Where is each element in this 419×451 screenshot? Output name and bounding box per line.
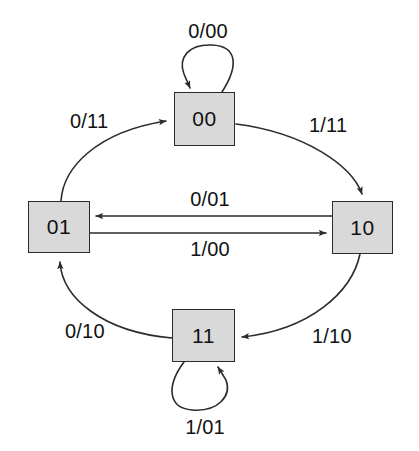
state-node-00[interactable]: 00 bbox=[174, 92, 235, 146]
edge-label-11-self-loop: 1/01 bbox=[185, 416, 225, 439]
state-node-11[interactable]: 11 bbox=[172, 309, 235, 362]
edge-label-11-to-01: 0/10 bbox=[65, 320, 105, 343]
edge-label-10-to-01: 0/01 bbox=[190, 188, 230, 211]
edge-label-01-to-00: 0/11 bbox=[70, 110, 108, 133]
edge-label-10-to-11: 1/10 bbox=[312, 325, 352, 348]
state-node-10-label: 10 bbox=[350, 216, 374, 240]
edge-11-self-loop bbox=[172, 362, 227, 410]
edge-label-01-to-10: 1/00 bbox=[190, 238, 230, 261]
state-node-10[interactable]: 10 bbox=[332, 201, 393, 254]
edge-01-to-00 bbox=[61, 121, 166, 201]
state-diagram-canvas: 00 01 10 11 0/00 0/11 1/11 0/01 1/00 0/1… bbox=[0, 0, 419, 451]
edge-label-00-self-loop: 0/00 bbox=[188, 20, 228, 43]
edge-00-self-loop bbox=[182, 45, 233, 92]
state-node-01[interactable]: 01 bbox=[28, 201, 90, 253]
state-node-00-label: 00 bbox=[192, 107, 216, 131]
state-node-01-label: 01 bbox=[47, 215, 71, 239]
edge-label-00-to-10: 1/11 bbox=[309, 114, 347, 137]
state-node-11-label: 11 bbox=[192, 324, 215, 348]
